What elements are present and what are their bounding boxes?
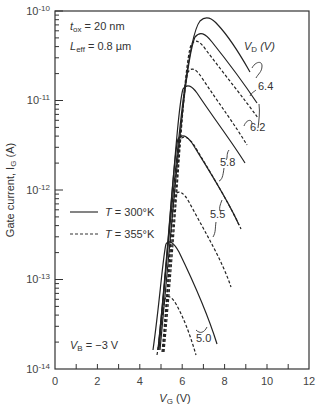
curves [153, 18, 258, 355]
x-axis-ticks [76, 364, 288, 369]
svg-text:4: 4 [137, 375, 143, 387]
leff-annotation: Leff = 0.8 µm [70, 40, 131, 54]
y-axis-label: Gate current, IG (A) [4, 143, 18, 237]
legend-label-300k: T = 300°K [105, 206, 155, 218]
curve-label-6.4: 6.4 [258, 80, 273, 92]
vd-header: VD (V) [244, 40, 275, 54]
svg-text:10-13: 10-13 [26, 272, 50, 285]
legend: T = 300°K T = 355°K [70, 206, 155, 240]
svg-text:10-11: 10-11 [27, 93, 51, 106]
chart-canvas: 0 2 4 6 8 10 12 VG (V) 10-10 10-11 10-12… [0, 0, 323, 409]
plot-frame [55, 11, 309, 369]
curve-label-5.5: 5.5 [210, 208, 225, 220]
curve-vd-6.4-300k [158, 18, 250, 350]
x-axis-label: VG (V) [159, 392, 190, 406]
svg-text:8: 8 [222, 375, 228, 387]
svg-text:10: 10 [261, 375, 273, 387]
svg-text:6: 6 [179, 375, 185, 387]
curve-vd-6.4-355k [163, 41, 258, 352]
y-axis-tick-labels: 10-10 10-11 10-12 10-13 10-14 [26, 4, 50, 375]
svg-text:10-12: 10-12 [26, 183, 50, 196]
svg-text:12: 12 [303, 375, 315, 387]
vb-annotation: VB = −3 V [70, 339, 119, 353]
svg-text:0: 0 [52, 375, 58, 387]
svg-text:10-10: 10-10 [26, 4, 50, 17]
svg-text:2: 2 [94, 375, 100, 387]
tox-annotation: tox = 20 nm [70, 20, 125, 34]
curve-vd-6.2-355k [164, 69, 247, 352]
curve-labels [196, 62, 262, 332]
curve-label-6.2: 6.2 [250, 121, 265, 133]
legend-label-355k: T = 355°K [105, 228, 155, 240]
curve-label-5.0: 5.0 [196, 332, 211, 344]
svg-text:10-14: 10-14 [26, 362, 50, 375]
curve-label-5.8: 5.8 [220, 156, 235, 168]
y-axis-ticks [55, 11, 63, 342]
x-axis-tick-labels: 0 2 4 6 8 10 12 [52, 375, 315, 387]
